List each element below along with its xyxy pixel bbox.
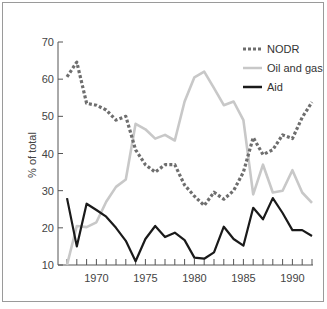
legend-label-nodr: NODR: [267, 43, 299, 55]
y-tick-label: 60: [42, 73, 54, 85]
x-tick-label: 1980: [182, 272, 206, 284]
y-tick-label: 70: [42, 36, 54, 48]
x-tick-label: 1990: [280, 272, 304, 284]
y-axis-label: % of total: [26, 132, 38, 178]
y-tick-label: 10: [42, 259, 54, 271]
legend-label-aid: Aid: [267, 81, 283, 93]
y-tick-label: 50: [42, 110, 54, 122]
y-tick-label: 20: [42, 222, 54, 234]
legend-label-oil-and-gas: Oil and gas: [267, 62, 323, 74]
y-tick-label: 40: [42, 148, 54, 160]
x-tick-label: 1970: [84, 272, 108, 284]
legend: NODR Oil and gas Aid: [243, 43, 323, 93]
series-line-oil-and-gas: [67, 72, 312, 265]
x-tick-label: 1985: [231, 272, 255, 284]
line-chart: 1020304050607019701975198019851990 NODR …: [0, 0, 327, 309]
y-tick-label: 30: [42, 185, 54, 197]
x-tick-label: 1975: [133, 272, 157, 284]
